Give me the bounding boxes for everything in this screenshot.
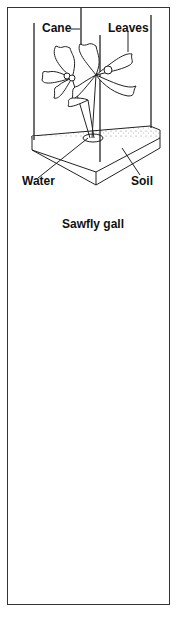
label-leaves: Leaves (108, 22, 149, 34)
label-water: Water (22, 175, 55, 187)
illustration (0, 0, 177, 618)
label-sawfly-gall: Sawfly gall (62, 218, 124, 230)
oak-leaves (42, 44, 136, 107)
label-soil: Soil (131, 175, 153, 187)
label-cane: Cane (42, 22, 71, 34)
